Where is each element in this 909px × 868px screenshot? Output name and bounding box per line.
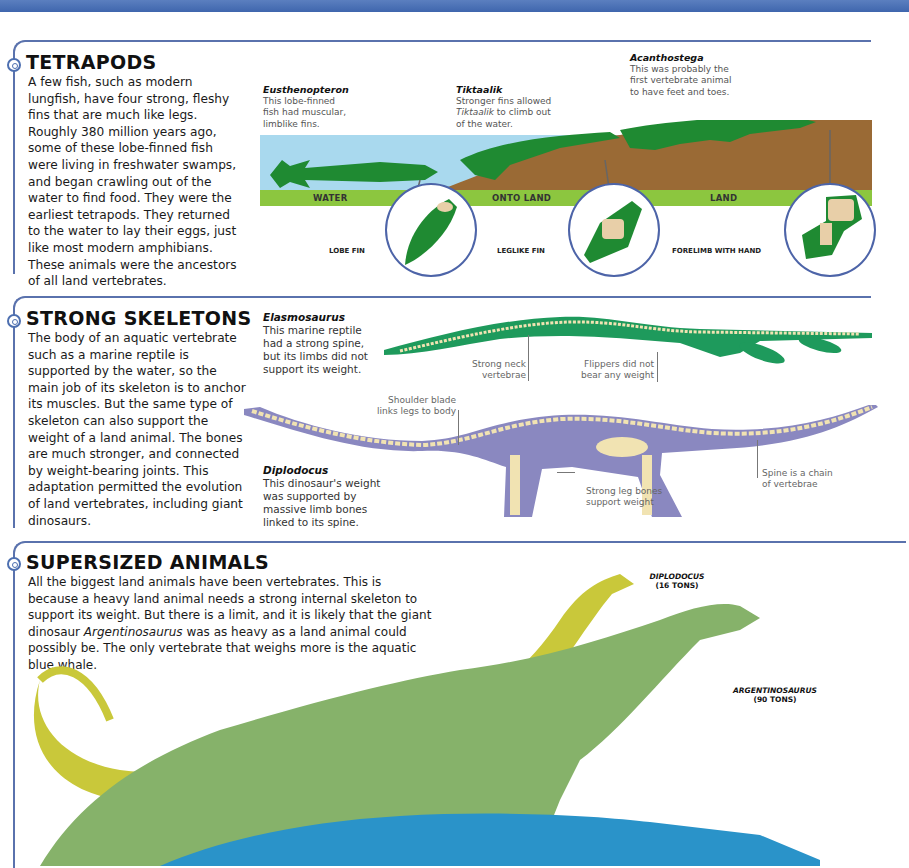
top-banner bbox=[0, 0, 909, 12]
fin-label-forelimb: FORELIMB WITH HAND bbox=[672, 247, 761, 255]
label-spine: Spine is a chain of vertebrae bbox=[762, 468, 842, 490]
section-body-text: A few fish, such as modern lungfish, hav… bbox=[28, 74, 242, 290]
band-label-land: LAND bbox=[710, 193, 737, 203]
tag-argentinosaurus: ARGENTINOSAURUS (90 TONS) bbox=[730, 686, 820, 704]
label-flippers: Flippers did not bear any weight bbox=[578, 359, 654, 381]
evolution-scene-illustration bbox=[260, 120, 872, 280]
leglike-fin-circle bbox=[568, 183, 660, 277]
band-label-water: WATER bbox=[313, 193, 348, 203]
section-bracket bbox=[13, 296, 29, 528]
leader-line bbox=[757, 440, 758, 478]
label-leg-bones: Strong leg bones support weight bbox=[586, 486, 666, 508]
size-comparison-illustration bbox=[0, 560, 909, 866]
caption-acanthostega: Acanthostega This was probably the first… bbox=[630, 52, 740, 98]
forelimb-hand-circle bbox=[784, 183, 876, 277]
section-bullet-icon bbox=[7, 58, 21, 72]
leader-line bbox=[458, 410, 459, 445]
section-divider bbox=[26, 296, 871, 298]
fin-label-lobe: LOBE FIN bbox=[329, 247, 365, 255]
leader-line bbox=[557, 472, 575, 473]
section-divider bbox=[26, 541, 906, 543]
section-body-text: The body of an aquatic vertebrate such a… bbox=[28, 330, 250, 529]
label-neck-vertebrae: Strong neck vertebrae bbox=[466, 359, 526, 381]
lobe-fin-circle bbox=[385, 183, 477, 277]
section-heading: STRONG SKELETONS bbox=[26, 307, 252, 329]
fin-label-leglike: LEGLIKE FIN bbox=[497, 247, 545, 255]
caption-diplodocus: Diplodocus This dinosaur's weight was su… bbox=[263, 464, 388, 529]
section-heading: TETRAPODS bbox=[26, 51, 156, 73]
tag-diplodocus: DIPLODOCUS (16 TONS) bbox=[642, 572, 712, 590]
section-divider bbox=[26, 40, 871, 42]
caption-elasmosaurus: Elasmosaurus This marine reptile had a s… bbox=[263, 311, 373, 376]
band-label-onto-land: ONTO LAND bbox=[492, 193, 551, 203]
section-bracket bbox=[13, 40, 29, 274]
leader-line bbox=[657, 352, 658, 382]
section-bullet-icon bbox=[7, 314, 21, 328]
leader-line bbox=[528, 335, 529, 381]
